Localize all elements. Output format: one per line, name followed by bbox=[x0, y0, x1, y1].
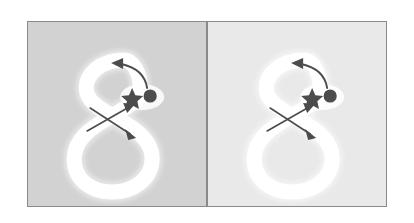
dot-marker[interactable] bbox=[323, 89, 336, 102]
panel-strip bbox=[27, 21, 387, 207]
panel-left-canvas bbox=[28, 22, 206, 206]
panel-right-canvas bbox=[208, 22, 386, 206]
figure-root bbox=[0, 0, 414, 223]
dot-marker[interactable] bbox=[144, 89, 157, 102]
panel-left[interactable] bbox=[28, 22, 206, 206]
panel-right[interactable] bbox=[208, 22, 386, 206]
